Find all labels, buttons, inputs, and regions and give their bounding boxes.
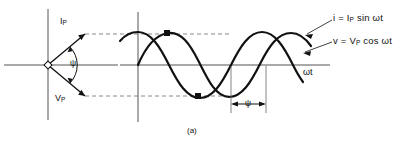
figure-caption: (a): [187, 126, 197, 135]
equation-current: i = IP sin ωt: [333, 12, 383, 23]
leader-line-current: [307, 20, 332, 34]
psi-arrowhead-right: [259, 102, 266, 107]
phasor-voltage-vector: [48, 65, 85, 96]
waveform-psi-label: ψ: [245, 99, 251, 108]
phasor-current-vector: [48, 34, 85, 65]
phasor-current-label: IP: [60, 17, 67, 27]
leader-arrowhead-voltage: [303, 51, 311, 56]
phasor-voltage-label: VP: [55, 94, 65, 104]
leader-arrowhead-current: [305, 34, 313, 39]
equation-voltage: v = VP cos ωt: [333, 35, 392, 46]
psi-arrowhead-left: [231, 102, 238, 107]
omega-t-axis-label: ωt: [303, 68, 313, 77]
phasor-angle-label: ψ: [70, 59, 76, 68]
figure-phasor-and-waveforms: IP VP ψ ψ ωt i = IP sin ωt v = VP cos ωt…: [0, 0, 410, 143]
marker-current-peak: [164, 30, 170, 36]
marker-voltage-trough: [195, 93, 201, 99]
